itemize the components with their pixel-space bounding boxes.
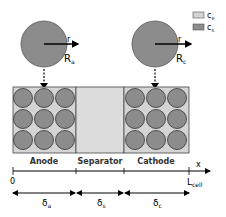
- battery-cell-diagram: ce cs r Ra r Rc Anode Separator Cathode: [0, 0, 226, 217]
- radial-label: r: [67, 35, 71, 44]
- solid-particle: [147, 89, 166, 108]
- solid-particle: [14, 131, 33, 150]
- solid-particle: [147, 131, 166, 150]
- solid-particle: [35, 110, 54, 129]
- anode-thickness-label: δa: [42, 198, 52, 209]
- anode-radius-label: Ra: [64, 53, 75, 65]
- cathode-radius-label: Rc: [176, 53, 186, 65]
- axis-label: x: [196, 160, 201, 169]
- cell-body: [13, 87, 189, 153]
- solid-particle: [168, 110, 187, 129]
- cathode-thickness-label: δc: [153, 198, 162, 209]
- solid-particle: [126, 131, 145, 150]
- radial-label: r: [178, 35, 182, 44]
- solid-particle: [56, 131, 75, 150]
- solid-particle: [56, 110, 75, 129]
- cathode-label: Cathode: [137, 157, 175, 166]
- legend-label-electrolyte: ce: [207, 11, 214, 21]
- solid-particle: [35, 131, 54, 150]
- anode-label: Anode: [30, 157, 59, 166]
- solid-particle: [168, 131, 187, 150]
- solid-particle: [168, 89, 187, 108]
- legend: ce cs: [193, 11, 214, 33]
- cathode-particles-grid: [126, 89, 187, 150]
- separator-thickness-label: δs: [97, 198, 106, 209]
- anode-particle: r Ra: [21, 21, 78, 89]
- solid-particle: [35, 89, 54, 108]
- solid-particle: [126, 110, 145, 129]
- axis-end-label: Lcell: [187, 177, 203, 188]
- thickness-dimensions: δa δs δc: [13, 193, 189, 209]
- separator-label: Separator: [78, 157, 123, 166]
- legend-label-solid: cs: [207, 23, 214, 33]
- solid-particle: [147, 110, 166, 129]
- legend-swatch-electrolyte: [193, 12, 204, 18]
- solid-particle: [14, 110, 33, 129]
- separator-region: [76, 87, 124, 153]
- solid-particle: [14, 89, 33, 108]
- anode-particles-grid: [14, 89, 75, 150]
- solid-particle: [126, 89, 145, 108]
- axis-start-label: 0: [10, 177, 15, 186]
- cathode-particle: r Rc: [132, 21, 191, 89]
- solid-particle: [56, 89, 75, 108]
- legend-swatch-solid: [193, 24, 204, 30]
